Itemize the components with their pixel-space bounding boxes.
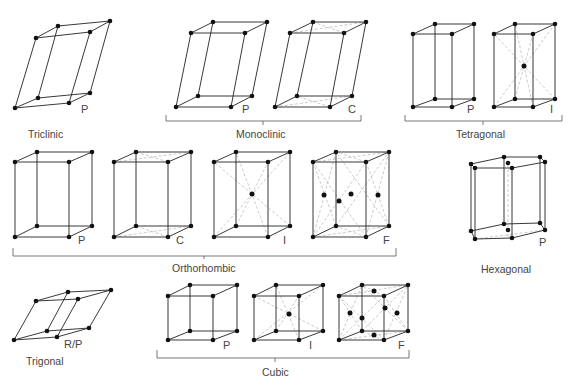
orthorhombic-p-cell: P	[13, 150, 95, 246]
lattice-type-label: P	[78, 234, 85, 246]
system-label-tetragonal: Tetragonal	[456, 128, 505, 140]
system-label-hexagonal: Hexagonal	[481, 263, 531, 275]
lattice-type-label: I	[309, 339, 312, 351]
lattice-type-label: P	[223, 339, 230, 351]
lattice-type-label: C	[348, 103, 356, 115]
monoclinic-bracket	[166, 115, 361, 125]
lattice-type-label: I	[550, 103, 553, 115]
lattice-type-label: P	[242, 103, 249, 115]
cubic-bracket	[157, 350, 409, 362]
triclinic-p-cell: P	[13, 19, 113, 115]
lattice-type-label: P	[539, 236, 546, 248]
system-label-triclinic: Triclinic	[28, 128, 63, 140]
tetragonal-p-cell: P	[411, 22, 477, 115]
monoclinic-p-cell: P	[174, 20, 270, 115]
cubic-f-cell: F	[337, 283, 411, 351]
orthorhombic-i-cell: I	[212, 150, 293, 246]
trigonal-rp-cell: R/P	[12, 288, 114, 350]
system-label-cubic: Cubic	[262, 366, 289, 378]
lattice-type-label: R/P	[64, 338, 82, 350]
hexagonal-p-cell: P	[469, 155, 548, 248]
lattice-type-label: F	[398, 339, 405, 351]
orthorhombic-f-cell: F	[311, 150, 392, 246]
lattice-type-label: P	[81, 103, 88, 115]
cubic-p-cell: P	[166, 283, 240, 351]
tetragonal-i-cell: I	[492, 22, 558, 115]
orthorhombic-bracket	[13, 248, 396, 259]
system-label-orthorhombic: Orthorhombic	[172, 262, 236, 274]
bravais-lattice-diagram: P Triclinic P C Monoclinic	[0, 0, 572, 383]
orthorhombic-c-cell: C	[112, 150, 194, 246]
lattice-type-label: P	[467, 103, 474, 115]
system-label-monoclinic: Monoclinic	[236, 128, 286, 140]
tetragonal-bracket	[405, 115, 562, 125]
monoclinic-c-cell: C	[273, 20, 369, 115]
system-label-trigonal: Trigonal	[26, 355, 64, 367]
lattice-type-label: C	[176, 234, 184, 246]
lattice-type-label: F	[383, 234, 390, 246]
lattice-type-label: I	[283, 234, 286, 246]
cubic-i-cell: I	[252, 283, 326, 351]
